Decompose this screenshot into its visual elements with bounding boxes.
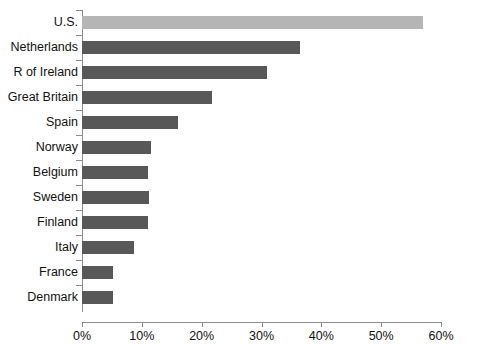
category-label-italy: Italy (0, 241, 82, 254)
x-tick-mark (262, 322, 263, 327)
x-tick-label: 60% (428, 329, 453, 343)
category-label-r-of-ireland: R of Ireland (0, 66, 82, 79)
category-label-norway: Norway (0, 141, 82, 154)
bar-row: R of Ireland (0, 60, 478, 85)
bar-cell (82, 260, 478, 285)
x-axis-ticks: 0%10%20%30%40%50%60% (0, 322, 478, 344)
x-tick-mark (142, 322, 143, 327)
bar-cell (82, 185, 478, 210)
bar-cell (82, 285, 478, 310)
x-tick-mark (321, 322, 322, 327)
category-label-sweden: Sweden (0, 191, 82, 204)
bar-row: U.S. (0, 10, 478, 35)
chart-title-clipped (60, 0, 460, 3)
bar-cell (82, 35, 478, 60)
bar-netherlands (82, 41, 300, 54)
bar-great-britain (82, 91, 212, 104)
bar-r-of-ireland (82, 66, 267, 79)
category-label-netherlands: Netherlands (0, 41, 82, 54)
x-tick-label: 50% (369, 329, 394, 343)
category-label-belgium: Belgium (0, 166, 82, 179)
category-label-france: France (0, 266, 82, 279)
bar-norway (82, 141, 151, 154)
bar-denmark (82, 291, 113, 304)
bar-u-s (82, 16, 423, 29)
bar-row: Finland (0, 210, 478, 235)
category-label-finland: Finland (0, 216, 82, 229)
x-tick-label: 30% (249, 329, 274, 343)
bar-spain (82, 116, 178, 129)
bar-cell (82, 160, 478, 185)
bar-chart: U.S.NetherlandsR of IrelandGreat Britain… (0, 0, 478, 344)
x-tick-mark (202, 322, 203, 327)
x-tick-mark (381, 322, 382, 327)
bar-row: Great Britain (0, 85, 478, 110)
bar-rows: U.S.NetherlandsR of IrelandGreat Britain… (0, 10, 478, 310)
bar-row: Sweden (0, 185, 478, 210)
bar-cell (82, 235, 478, 260)
bar-cell (82, 85, 478, 110)
category-label-great-britain: Great Britain (0, 91, 82, 104)
bar-cell (82, 210, 478, 235)
bar-row: Denmark (0, 285, 478, 310)
plot-area: U.S.NetherlandsR of IrelandGreat Britain… (0, 10, 478, 310)
bar-belgium (82, 166, 148, 179)
bar-france (82, 266, 113, 279)
bar-row: Netherlands (0, 35, 478, 60)
bar-row: Italy (0, 235, 478, 260)
bar-row: Norway (0, 135, 478, 160)
category-label-spain: Spain (0, 116, 82, 129)
bar-finland (82, 216, 148, 229)
x-tick-mark (441, 322, 442, 327)
bar-cell (82, 60, 478, 85)
x-tick-mark (82, 322, 83, 327)
bar-row: Belgium (0, 160, 478, 185)
bar-cell (82, 135, 478, 160)
bar-row: France (0, 260, 478, 285)
bar-italy (82, 241, 134, 254)
x-tick-label: 40% (309, 329, 334, 343)
bar-row: Spain (0, 110, 478, 135)
x-tick-label: 0% (73, 329, 91, 343)
category-label-denmark: Denmark (0, 291, 82, 304)
x-tick-label: 10% (129, 329, 154, 343)
category-label-u-s: U.S. (0, 16, 82, 29)
x-tick-label: 20% (189, 329, 214, 343)
bar-cell (82, 10, 478, 35)
bar-sweden (82, 191, 149, 204)
bar-cell (82, 110, 478, 135)
